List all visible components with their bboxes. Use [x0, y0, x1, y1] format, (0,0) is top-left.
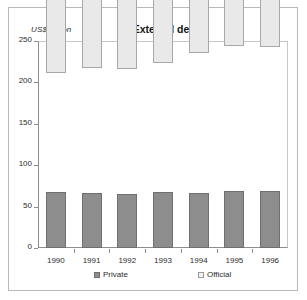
y-tick-mark: [34, 165, 38, 166]
stacked-bar[interactable]: [153, 41, 173, 248]
x-tick-mark: [145, 249, 146, 253]
legend-item[interactable]: Official: [198, 270, 231, 279]
bar-segment-official[interactable]: [46, 0, 66, 73]
bar-segment-official[interactable]: [153, 0, 173, 63]
y-tick-label: 150: [19, 118, 32, 127]
x-tick-mark: [109, 249, 110, 253]
legend-swatch-official: [198, 272, 204, 278]
bar-segment-official[interactable]: [260, 0, 280, 47]
y-tick-label: 250: [19, 35, 32, 44]
y-tick-mark: [34, 41, 38, 42]
bar-segment-official[interactable]: [82, 0, 102, 68]
stacked-bar[interactable]: [46, 41, 66, 248]
x-axis-label: 1992: [118, 256, 136, 265]
x-axis-label: 1991: [83, 256, 101, 265]
stacked-bar[interactable]: [117, 41, 137, 248]
x-tick-mark: [217, 249, 218, 253]
stacked-bar[interactable]: [82, 41, 102, 248]
chart-figure: US$ billion External debt 05010015020025…: [8, 7, 298, 291]
x-tick-mark: [252, 249, 253, 253]
y-tick-label: 200: [19, 76, 32, 85]
legend-label: Private: [103, 270, 128, 279]
x-axis-label: 1996: [261, 256, 279, 265]
y-tick-mark: [34, 248, 38, 249]
y-tick-label: 100: [19, 159, 32, 168]
y-tick-mark: [34, 82, 38, 83]
bar-segment-private[interactable]: [117, 194, 137, 248]
bar-segment-private[interactable]: [224, 191, 244, 248]
x-axis-label: 1995: [226, 256, 244, 265]
bar-segment-private[interactable]: [189, 193, 209, 248]
bar-segment-private[interactable]: [153, 192, 173, 248]
x-tick-mark: [181, 249, 182, 253]
x-axis-label: 1993: [154, 256, 172, 265]
y-tick-mark: [34, 207, 38, 208]
y-tick-label: 0: [28, 242, 32, 251]
bar-segment-official[interactable]: [189, 0, 209, 53]
bar-segment-private[interactable]: [46, 192, 66, 248]
legend-item[interactable]: Private: [94, 270, 128, 279]
stacked-bar[interactable]: [260, 41, 280, 248]
x-axis-label: 1994: [190, 256, 208, 265]
legend-swatch-private: [94, 272, 100, 278]
x-tick-mark: [74, 249, 75, 253]
stacked-bar[interactable]: [189, 41, 209, 248]
stacked-bar[interactable]: [224, 41, 244, 248]
x-axis-label: 1990: [47, 256, 65, 265]
plot-area: 050100150200250 199019911992199319941995…: [38, 41, 288, 248]
y-tick-mark: [34, 124, 38, 125]
bar-segment-private[interactable]: [260, 191, 280, 248]
bar-segment-official[interactable]: [224, 0, 244, 46]
bar-segment-private[interactable]: [82, 193, 102, 248]
legend-label: Official: [207, 270, 231, 279]
y-tick-label: 50: [23, 201, 32, 210]
bar-segment-official[interactable]: [117, 0, 137, 69]
chart-legend: PrivateOfficial: [38, 270, 288, 282]
